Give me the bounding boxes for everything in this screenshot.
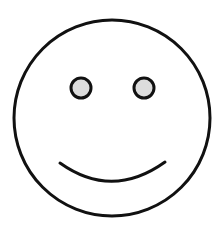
left-eye [71, 78, 91, 98]
face-outline [14, 20, 210, 216]
right-eye [134, 78, 154, 98]
smiley-face-figure [0, 0, 224, 231]
